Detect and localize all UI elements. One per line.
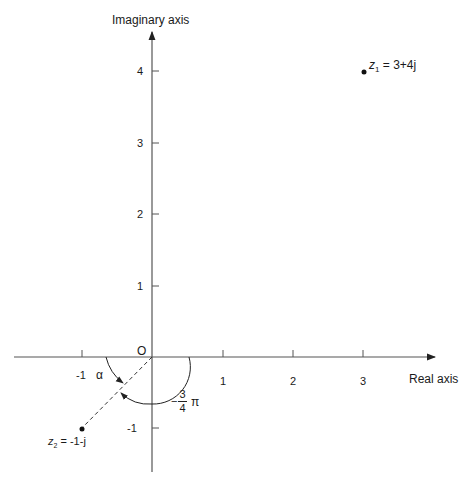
- z1-label: z1 = 3+4j: [369, 59, 416, 74]
- imaginary-axis-label: Imaginary axis: [112, 14, 189, 26]
- real-axis-label: Real axis: [409, 373, 458, 385]
- fraction-denominator: 4: [178, 403, 187, 414]
- z2-vector-dashed: [82, 357, 152, 428]
- y-tick-label: 4: [137, 66, 143, 77]
- fraction-numerator: 3: [178, 389, 187, 400]
- z2-point: [80, 427, 85, 432]
- angle-sign: −: [171, 396, 177, 407]
- x-tick-label: 2: [290, 376, 296, 387]
- x-tick-label: 3: [360, 376, 366, 387]
- alpha-label: α: [96, 369, 103, 381]
- origin-label: O: [137, 345, 146, 357]
- x-tick-label: 1: [220, 376, 226, 387]
- y-tick-label: 1: [137, 281, 143, 292]
- z1-point: [362, 70, 367, 75]
- y-ticks: [152, 71, 159, 428]
- alpha-arc: [106, 357, 123, 383]
- x-ticks: [82, 350, 363, 357]
- y-tick-label: 2: [137, 209, 143, 220]
- x-tick-label: -1: [76, 370, 86, 381]
- y-tick-label: -1: [127, 423, 137, 434]
- y-tick-label: 3: [137, 138, 143, 149]
- angle-fraction: 3 4: [178, 389, 187, 414]
- z2-label: z2 = -1-j: [48, 436, 86, 449]
- pi-symbol: π: [191, 396, 199, 408]
